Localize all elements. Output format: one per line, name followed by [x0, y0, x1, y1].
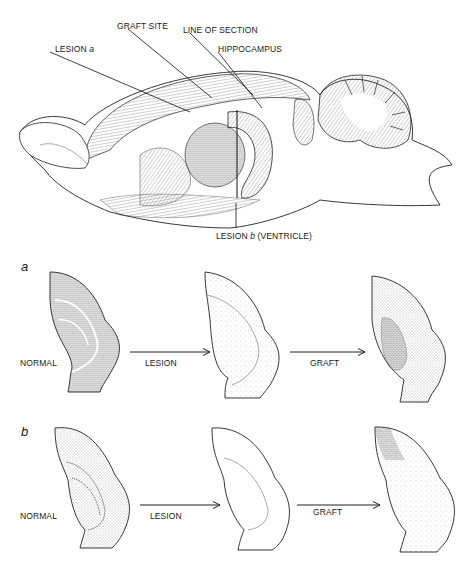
figure-illustration — [0, 0, 469, 563]
panel-b-label-normal: NORMAL — [20, 511, 57, 521]
panel-b-label-graft: GRAFT — [313, 507, 342, 517]
panel-a-drawings — [50, 272, 445, 402]
label-lesion-a-letter: a — [89, 44, 94, 54]
label-lesion-b-text: LESION — [216, 231, 250, 241]
panel-a-label-lesion: LESION — [145, 358, 177, 368]
panel-b-drawings — [55, 427, 454, 552]
label-line-of-section: LINE OF SECTION — [183, 25, 258, 35]
label-hippocampus: HIPPOCAMPUS — [218, 44, 282, 54]
label-lesion-b-suffix: (VENTRICLE) — [255, 231, 312, 241]
label-graft-site: GRAFT SITE — [117, 21, 168, 31]
label-lesion-a: LESION a — [55, 44, 94, 54]
panel-a-label-normal: NORMAL — [20, 358, 57, 368]
label-lesion-b: LESION b (VENTRICLE) — [216, 231, 312, 241]
brain-sagittal-drawing — [19, 29, 452, 228]
cerebellum — [318, 75, 411, 148]
panel-a-label-graft: GRAFT — [310, 358, 339, 368]
label-lesion-a-text: LESION — [55, 44, 89, 54]
panel-a-letter: a — [21, 259, 28, 274]
panel-b-letter: b — [21, 424, 28, 439]
panel-b-label-lesion: LESION — [150, 511, 182, 521]
